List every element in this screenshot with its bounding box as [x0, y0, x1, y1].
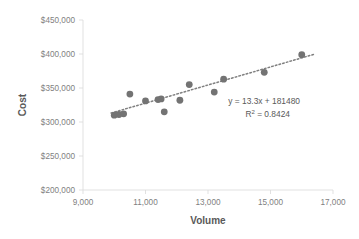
data-point — [186, 81, 193, 88]
y-tick-label: $450,000 — [41, 16, 76, 25]
data-point — [158, 95, 165, 102]
x-tick-label: 9,000 — [73, 198, 94, 207]
y-tick-label: $200,000 — [41, 186, 76, 195]
r-squared-label: R2 = 0.8424 — [245, 109, 290, 119]
data-point — [126, 91, 133, 98]
data-point — [176, 97, 183, 104]
x-axis-title: Volume — [190, 215, 226, 226]
data-point — [142, 98, 149, 105]
y-tick-label: $300,000 — [41, 118, 76, 127]
x-axis-ticks — [83, 190, 333, 194]
y-tick-label: $250,000 — [41, 152, 76, 161]
data-point — [120, 110, 127, 117]
chart-canvas: $450,000 $400,000 $350,000 $300,000 $250… — [0, 0, 359, 239]
scatter-chart: $450,000 $400,000 $350,000 $300,000 $250… — [0, 0, 359, 239]
y-axis-tick-labels: $450,000 $400,000 $350,000 $300,000 $250… — [41, 16, 76, 195]
x-axis-tick-labels: 9,000 11,000 13,000 15,000 17,000 — [73, 198, 346, 207]
data-point — [220, 76, 227, 83]
y-tick-label: $400,000 — [41, 50, 76, 59]
x-tick-label: 17,000 — [320, 198, 345, 207]
x-tick-label: 15,000 — [258, 198, 283, 207]
data-point — [161, 108, 168, 115]
y-axis-ticks — [79, 20, 83, 190]
y-tick-label: $350,000 — [41, 84, 76, 93]
x-tick-label: 11,000 — [133, 198, 158, 207]
data-point — [261, 69, 268, 76]
data-point — [211, 89, 218, 96]
trendline-equation-label: y = 13.3x + 181480 — [228, 96, 300, 106]
y-axis-title: Cost — [17, 93, 28, 116]
data-point — [298, 51, 305, 58]
x-tick-label: 13,000 — [195, 198, 220, 207]
r-squared-value: = 0.8424 — [255, 109, 291, 119]
